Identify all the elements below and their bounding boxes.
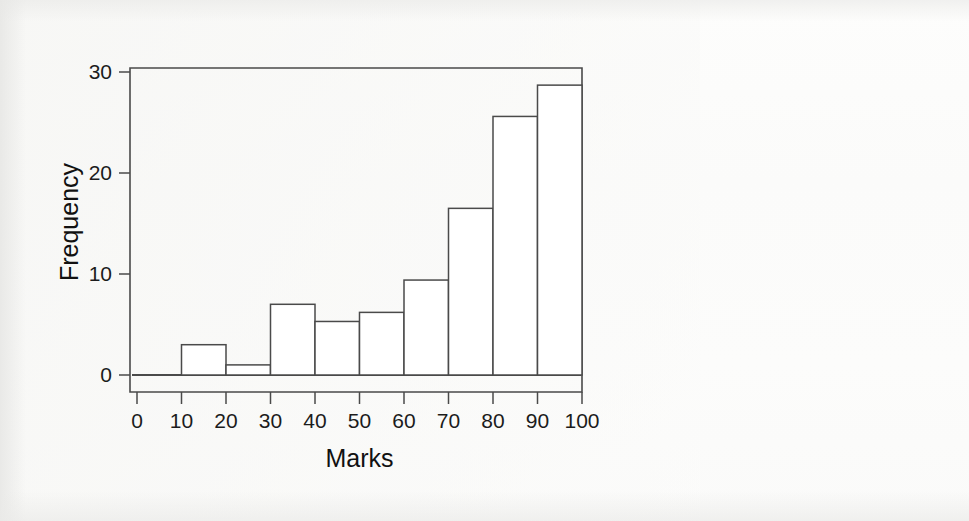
x-axis-tick-label: 100 xyxy=(564,409,599,432)
y-axis-tick-label: 10 xyxy=(89,262,112,285)
x-axis-ticks: 0102030405060708090100 xyxy=(131,392,599,432)
histogram-bar xyxy=(493,116,538,375)
x-axis-tick-label: 80 xyxy=(481,409,504,432)
histogram-bar xyxy=(449,208,494,375)
x-axis-title: Marks xyxy=(325,444,393,472)
y-axis-title: Frequency xyxy=(55,162,83,281)
x-axis-tick-label: 70 xyxy=(437,409,460,432)
x-axis-tick-label: 20 xyxy=(214,409,237,432)
histogram-bar xyxy=(226,365,271,375)
histogram-chart: 0102030 0102030405060708090100 Marks Fre… xyxy=(0,0,700,500)
x-axis-tick-label: 50 xyxy=(348,409,371,432)
x-axis-tick-label: 40 xyxy=(303,409,326,432)
histogram-bar xyxy=(538,85,583,375)
histogram-bars xyxy=(182,85,583,375)
y-axis-ticks: 0102030 xyxy=(89,60,130,386)
histogram-bar xyxy=(360,312,405,375)
histogram-bar xyxy=(404,280,449,375)
y-axis-tick-label: 0 xyxy=(100,363,112,386)
histogram-bar xyxy=(315,321,360,375)
x-axis-tick-label: 60 xyxy=(392,409,415,432)
x-axis-tick-label: 0 xyxy=(131,409,143,432)
x-axis-tick-label: 30 xyxy=(259,409,282,432)
histogram-figure: 0102030 0102030405060708090100 Marks Fre… xyxy=(0,0,700,500)
histogram-bar xyxy=(271,304,316,375)
x-axis-tick-label: 10 xyxy=(170,409,193,432)
y-axis-tick-label: 30 xyxy=(89,60,112,83)
y-axis-tick-label: 20 xyxy=(89,161,112,184)
histogram-bar xyxy=(182,345,227,375)
x-axis-tick-label: 90 xyxy=(526,409,549,432)
